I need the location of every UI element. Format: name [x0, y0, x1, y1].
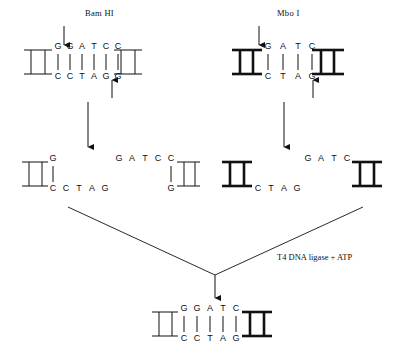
base-bottom: C: [181, 333, 188, 343]
base-bottom: G: [167, 183, 174, 193]
base-top: A: [318, 153, 324, 163]
base-bottom: T: [280, 71, 286, 81]
base-bottom: C: [50, 183, 57, 193]
bamhi-rungs: [58, 54, 118, 70]
ligated-rungs: [184, 316, 236, 332]
base-bottom: A: [89, 183, 95, 193]
base-bottom: T: [79, 71, 85, 81]
base-top: T: [91, 41, 97, 51]
fragment-bamhi-left: G C C T A G: [22, 153, 109, 193]
mboi-rungs: [268, 54, 312, 70]
base-top: G: [115, 153, 122, 163]
base-bottom: G: [102, 71, 109, 81]
converge-line-right: [215, 207, 363, 275]
base-top: G: [193, 303, 200, 313]
base-top: T: [295, 41, 301, 51]
base-bottom: G: [308, 71, 315, 81]
base-bottom: A: [91, 71, 97, 81]
base-top: T: [220, 303, 226, 313]
base-bottom: C: [265, 71, 272, 81]
base-top: C: [155, 153, 162, 163]
base-bottom: C: [67, 71, 74, 81]
base-bottom: T: [268, 183, 274, 193]
duplex-bamhi: G G A T C C C C T A G G: [24, 26, 142, 98]
base-top: C: [115, 41, 122, 51]
base-top: T: [142, 153, 148, 163]
fragment-bamhi-right: G A T C C G: [115, 153, 200, 193]
base-bottom: A: [281, 183, 287, 193]
base-top: C: [309, 41, 316, 51]
base-top: A: [207, 303, 213, 313]
duplex-mboi: G A T C C T A G: [232, 26, 344, 98]
base-bottom: T: [76, 183, 82, 193]
base-bottom: G: [293, 183, 300, 193]
base-top: C: [168, 153, 175, 163]
duplex-ligated: G G A T C C C T A G: [152, 303, 272, 343]
base-bottom: G: [114, 71, 121, 81]
fragment-mboi-right: G A T C: [304, 153, 382, 186]
converge-line-left: [68, 207, 215, 275]
base-top: C: [233, 303, 240, 313]
base-bottom: C: [63, 183, 70, 193]
base-top: T: [331, 153, 337, 163]
base-top: C: [344, 153, 351, 163]
base-bottom: G: [101, 183, 108, 193]
base-top: G: [180, 303, 187, 313]
diagram-canvas: Bam HI Mbo I T4 DNA ligase + ATP: [0, 0, 398, 356]
base-bottom: C: [194, 333, 201, 343]
base-bottom: C: [255, 183, 262, 193]
base-top: A: [280, 41, 286, 51]
base-top: G: [54, 41, 61, 51]
base-top: C: [103, 41, 110, 51]
base-bottom: A: [220, 333, 226, 343]
base-top: A: [79, 41, 85, 51]
base-top: G: [49, 153, 56, 163]
base-bottom: T: [207, 333, 213, 343]
diagram-svg: G G A T C C C C T A G G: [0, 0, 398, 356]
base-top: A: [129, 153, 135, 163]
base-bottom: C: [55, 71, 62, 81]
fragment-mboi-left: C T A G: [222, 162, 301, 193]
base-top: G: [66, 41, 73, 51]
base-bottom: G: [232, 333, 239, 343]
base-bottom: A: [295, 71, 301, 81]
base-top: G: [264, 41, 271, 51]
base-top: G: [304, 153, 311, 163]
